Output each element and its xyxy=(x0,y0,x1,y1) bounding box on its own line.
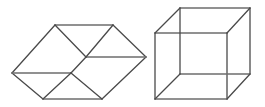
figure-canvas xyxy=(0,0,265,107)
canvas-background xyxy=(0,0,265,107)
